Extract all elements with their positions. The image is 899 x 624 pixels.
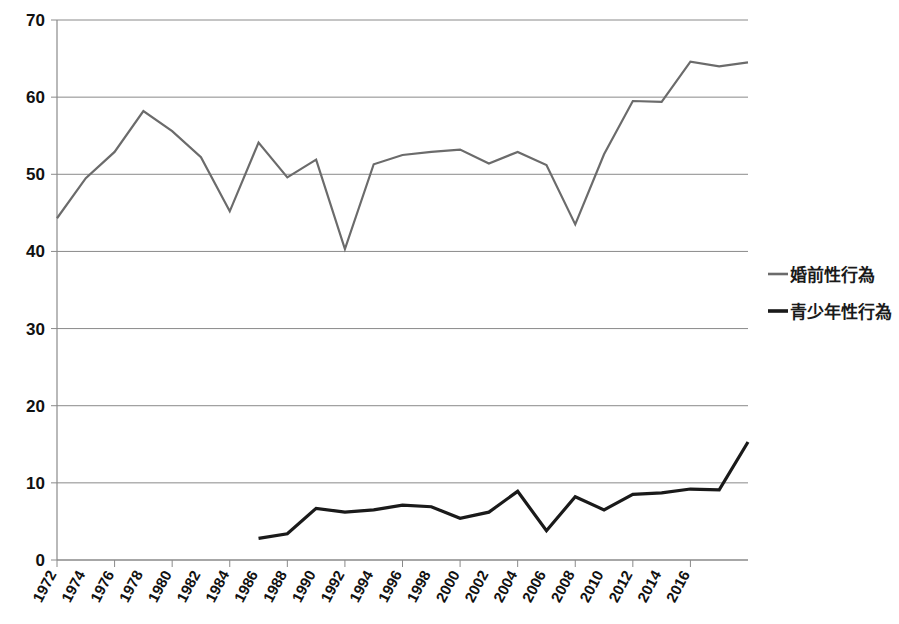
data-series	[57, 62, 748, 539]
x-tick-label: 2004	[490, 567, 521, 605]
y-tick-label: 30	[26, 320, 45, 339]
x-tick-label: 1978	[115, 567, 146, 604]
y-axis	[51, 20, 57, 560]
y-tick-label: 10	[26, 474, 45, 493]
x-tick-label: 1972	[29, 567, 60, 604]
x-tick-label: 2006	[518, 567, 549, 604]
x-tick-label: 1976	[87, 567, 118, 604]
x-tick-label: 1988	[259, 567, 290, 604]
x-tick-label: 2000	[432, 567, 463, 604]
legend-label-2: 青少年性行為	[790, 302, 892, 322]
x-tick-label: 2008	[547, 567, 578, 604]
series-line-1	[57, 62, 748, 249]
x-tick-label: 1982	[173, 567, 204, 604]
y-tick-label: 70	[26, 11, 45, 30]
x-tick-label: 1984	[202, 567, 233, 605]
y-tick-labels: 010203040506070	[26, 11, 45, 570]
x-tick-label: 1996	[374, 567, 405, 604]
y-tick-label: 50	[26, 165, 45, 184]
x-tick-label: 1990	[288, 567, 319, 604]
line-chart: 010203040506070 197219741976197819801982…	[0, 0, 899, 624]
series-line-2	[259, 442, 748, 538]
legend: 婚前性行為青少年性行為	[768, 265, 892, 322]
x-axis	[57, 560, 748, 567]
x-tick-label: 2016	[662, 567, 693, 604]
y-tick-label: 60	[26, 88, 45, 107]
x-tick-label: 1974	[58, 567, 89, 605]
x-tick-label: 2002	[461, 567, 492, 604]
x-tick-label: 1994	[346, 567, 377, 605]
y-tick-label: 0	[36, 551, 45, 570]
x-tick-label: 1980	[144, 567, 175, 604]
x-tick-label: 2014	[634, 567, 665, 605]
chart-container: 010203040506070 197219741976197819801982…	[0, 0, 899, 624]
legend-label-1: 婚前性行為	[790, 265, 875, 285]
x-tick-labels: 1972197419761978198019821984198619881990…	[29, 567, 693, 605]
x-tick-label: 1986	[231, 567, 262, 604]
x-tick-label: 2010	[576, 567, 607, 604]
x-tick-label: 1998	[403, 567, 434, 604]
x-tick-label: 2012	[605, 567, 636, 604]
y-tick-label: 20	[26, 397, 45, 416]
y-tick-label: 40	[26, 242, 45, 261]
x-tick-label: 1992	[317, 567, 348, 604]
